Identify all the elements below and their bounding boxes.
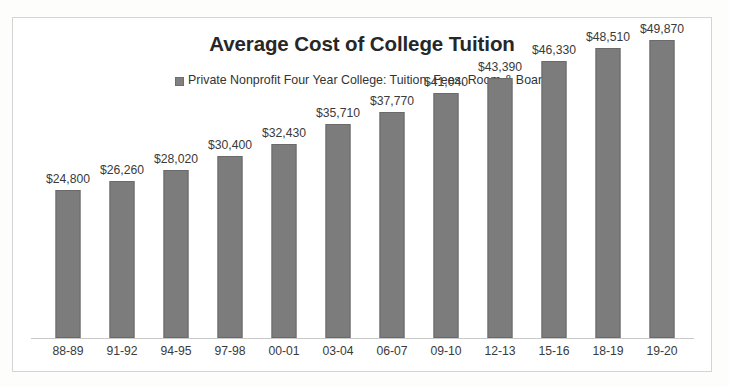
bar[interactable] — [164, 170, 189, 338]
x-axis-tick-label: 19-20 — [635, 344, 689, 358]
x-axis-tick-label: 97-98 — [203, 344, 257, 358]
x-axis-tick-label: 00-01 — [257, 344, 311, 358]
bar-slot: $30,400 — [203, 18, 257, 338]
x-axis-line — [31, 338, 694, 339]
bar-slot: $48,510 — [581, 18, 635, 338]
bar-value-label: $24,800 — [46, 172, 90, 186]
bar-slot: $26,260 — [95, 18, 149, 338]
bar[interactable] — [380, 112, 405, 338]
bar-slot: $46,330 — [527, 18, 581, 338]
x-axis-tick-label: 03-04 — [311, 344, 365, 358]
bar[interactable] — [434, 93, 459, 338]
bar-value-label: $32,430 — [262, 126, 306, 140]
bar-group: $24,800$26,260$28,020$30,400$32,430$35,7… — [31, 18, 694, 338]
bar[interactable] — [596, 48, 621, 338]
bar[interactable] — [326, 124, 351, 338]
bar[interactable] — [218, 156, 243, 338]
bar-slot: $37,770 — [365, 18, 419, 338]
chart-frame: Average Cost of College Tuition Private … — [12, 17, 712, 372]
x-axis-labels: 88-8991-9294-9597-9800-0103-0406-0709-10… — [31, 344, 694, 366]
bar-slot: $35,710 — [311, 18, 365, 338]
bar[interactable] — [56, 190, 81, 338]
bar-value-label: $49,870 — [640, 22, 684, 36]
bar-slot: $32,430 — [257, 18, 311, 338]
bar-slot: $41,040 — [419, 18, 473, 338]
x-axis-tick-label: 91-92 — [95, 344, 149, 358]
bar-value-label: $37,770 — [370, 94, 414, 108]
bar[interactable] — [650, 40, 675, 338]
x-axis-tick-label: 06-07 — [365, 344, 419, 358]
bar-value-label: $46,330 — [532, 43, 576, 57]
x-axis-tick-label: 15-16 — [527, 344, 581, 358]
bar-slot: $28,020 — [149, 18, 203, 338]
x-axis-tick-label: 88-89 — [41, 344, 95, 358]
bar[interactable] — [542, 61, 567, 338]
bar[interactable] — [110, 181, 135, 338]
plot-area: $24,800$26,260$28,020$30,400$32,430$35,7… — [13, 18, 711, 371]
bar-value-label: $30,400 — [208, 138, 252, 152]
x-axis-tick-label: 12-13 — [473, 344, 527, 358]
bar-slot: $43,390 — [473, 18, 527, 338]
bar-value-label: $48,510 — [586, 30, 630, 44]
bar-slot: $24,800 — [41, 18, 95, 338]
bar[interactable] — [272, 144, 297, 338]
bar-value-label: $26,260 — [100, 163, 144, 177]
bar[interactable] — [488, 78, 513, 338]
bar-slot: $49,870 — [635, 18, 689, 338]
bar-value-label: $41,040 — [424, 75, 468, 89]
bar-value-label: $35,710 — [316, 106, 360, 120]
x-axis-tick-label: 94-95 — [149, 344, 203, 358]
bar-value-label: $43,390 — [478, 60, 522, 74]
bar-value-label: $28,020 — [154, 152, 198, 166]
x-axis-tick-label: 09-10 — [419, 344, 473, 358]
x-axis-tick-label: 18-19 — [581, 344, 635, 358]
